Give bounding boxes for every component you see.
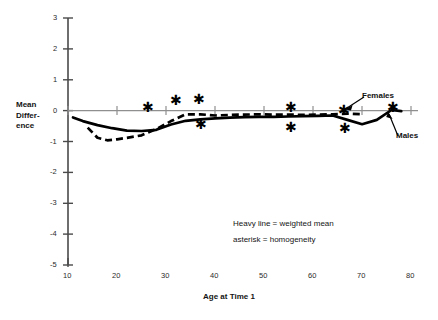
asterisk-marker: ✱: [142, 100, 154, 114]
y-axis-title: Mean Differ- ence: [16, 100, 40, 132]
x-tick-label-50: 50: [259, 272, 267, 280]
x-tick-label-10: 10: [63, 272, 71, 280]
asterisk-marker: ✱: [170, 93, 182, 107]
asterisk-marker: ✱: [338, 103, 350, 117]
y-axis-title-line-3: ence: [16, 121, 40, 132]
legend-entry-asterisk: asterisk = homogeneity: [233, 236, 316, 244]
asterisk-marker: ✱: [339, 121, 351, 135]
x-tick-label-60: 60: [308, 272, 316, 280]
y-tick-label-neg4: -4: [50, 230, 57, 238]
x-tick-label-30: 30: [161, 272, 169, 280]
asterisk-marker: ✱: [285, 120, 297, 134]
x-tick-label-40: 40: [210, 272, 218, 280]
x-tick-label-80: 80: [406, 272, 414, 280]
y-tick-label-3: 3: [53, 14, 57, 22]
asterisk-marker: ✱: [285, 100, 297, 114]
y-tick-label-neg5: -5: [50, 261, 57, 269]
y-tick-label-1: 1: [53, 76, 57, 84]
y-tick-label-neg1: -1: [50, 138, 57, 146]
legend-entry-heavy-line: Heavy line = weighted mean: [233, 220, 334, 228]
x-tick-label-20: 20: [112, 272, 120, 280]
asterisk-marker: ✱: [193, 92, 205, 106]
series-label-males: Males: [396, 132, 418, 140]
chart-figure: 3 2 1 0 -1 -2 -3 -4 -5 10 20 30 40 50 60…: [0, 0, 438, 320]
y-tick-label-0: 0: [53, 107, 57, 115]
asterisk-marker: ✱: [195, 117, 207, 131]
y-axis-title-line-1: Mean: [16, 100, 40, 111]
y-tick-label-neg2: -2: [50, 168, 57, 176]
asterisk-marker: ✱: [387, 100, 399, 114]
x-tick-label-70: 70: [357, 272, 365, 280]
x-axis-title: Age at Time 1: [203, 293, 255, 301]
y-tick-label-2: 2: [53, 45, 57, 53]
y-tick-label-neg3: -3: [50, 199, 57, 207]
series-line-males: [73, 110, 401, 131]
y-axis-title-line-2: Differ-: [16, 111, 40, 122]
